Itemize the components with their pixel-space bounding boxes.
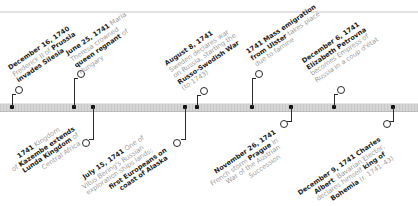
connector: [393, 107, 394, 122]
event-node[interactable]: [173, 139, 181, 147]
connector: [197, 95, 201, 96]
event-node[interactable]: [337, 86, 345, 94]
connector: [12, 94, 16, 95]
connector: [197, 95, 198, 107]
event-node[interactable]: [200, 87, 208, 95]
connector: [74, 78, 78, 79]
connector: [334, 94, 335, 107]
event-node[interactable]: [15, 86, 23, 94]
event-node[interactable]: [280, 120, 288, 128]
event-node[interactable]: [255, 70, 263, 78]
event-label-1741-kazembe: 1741 Kingdom of Kazembe extends Lunda Ki…: [3, 119, 85, 188]
connector: [181, 139, 186, 140]
connector: [334, 94, 338, 95]
connector: [252, 78, 256, 79]
connector: [89, 139, 94, 140]
event-label-nov-26-1741: November 26, 1741 French storm Prague in…: [205, 129, 291, 200]
event-label-dec-9-1741: December 9, 1741 Charles Albert, Bavaria…: [297, 136, 396, 206]
connector: [252, 78, 253, 107]
connector: [74, 78, 75, 107]
connector: [185, 107, 186, 140]
event-label-jun-25-1741: June 25, 1741 Maria Theresa crowned quee…: [65, 11, 141, 76]
connector: [93, 107, 94, 140]
connector: [12, 94, 13, 107]
event-node[interactable]: [383, 120, 391, 128]
top-divider: [0, 11, 418, 13]
connector: [291, 107, 292, 122]
timeline-axis: [0, 103, 418, 112]
event-label-aug-8-1741: August 8, 1741 Sweden declares war on Ru…: [164, 20, 247, 93]
